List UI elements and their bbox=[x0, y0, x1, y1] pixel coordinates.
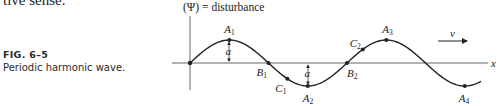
point-a1 bbox=[227, 38, 231, 42]
velocity-label: v bbox=[450, 27, 455, 39]
point-label-a4: A4 bbox=[458, 92, 470, 106]
y-axis-label: (Ψ) = disturbance bbox=[183, 1, 264, 14]
point-label-a1: A1 bbox=[223, 23, 235, 37]
point-label-a3: A3 bbox=[381, 23, 393, 37]
amplitude-label-2: a bbox=[305, 67, 311, 79]
point-a3 bbox=[384, 38, 388, 42]
point-c2 bbox=[361, 48, 365, 52]
point-a4 bbox=[463, 84, 467, 88]
point-b1 bbox=[267, 61, 271, 65]
point-label-c2: C2 bbox=[350, 37, 361, 51]
amplitude-label-1: a bbox=[226, 45, 232, 57]
x-axis-label: x bbox=[490, 57, 496, 69]
amplitude-marker-1: a bbox=[226, 42, 232, 63]
point-label-b2: B2 bbox=[347, 67, 358, 81]
point-a2 bbox=[306, 84, 310, 88]
point-c1 bbox=[285, 77, 289, 81]
point-label-c1: C1 bbox=[275, 82, 286, 96]
point-label-a2: A2 bbox=[302, 92, 314, 106]
point-b2 bbox=[345, 61, 349, 65]
point-label-b1: B1 bbox=[257, 66, 268, 80]
amplitude-marker-2: a bbox=[305, 65, 311, 86]
wave-diagram: (Ψ) = disturbance x v a a A1B1C1A2B2C2A3… bbox=[0, 0, 498, 106]
origin-point bbox=[188, 61, 192, 65]
